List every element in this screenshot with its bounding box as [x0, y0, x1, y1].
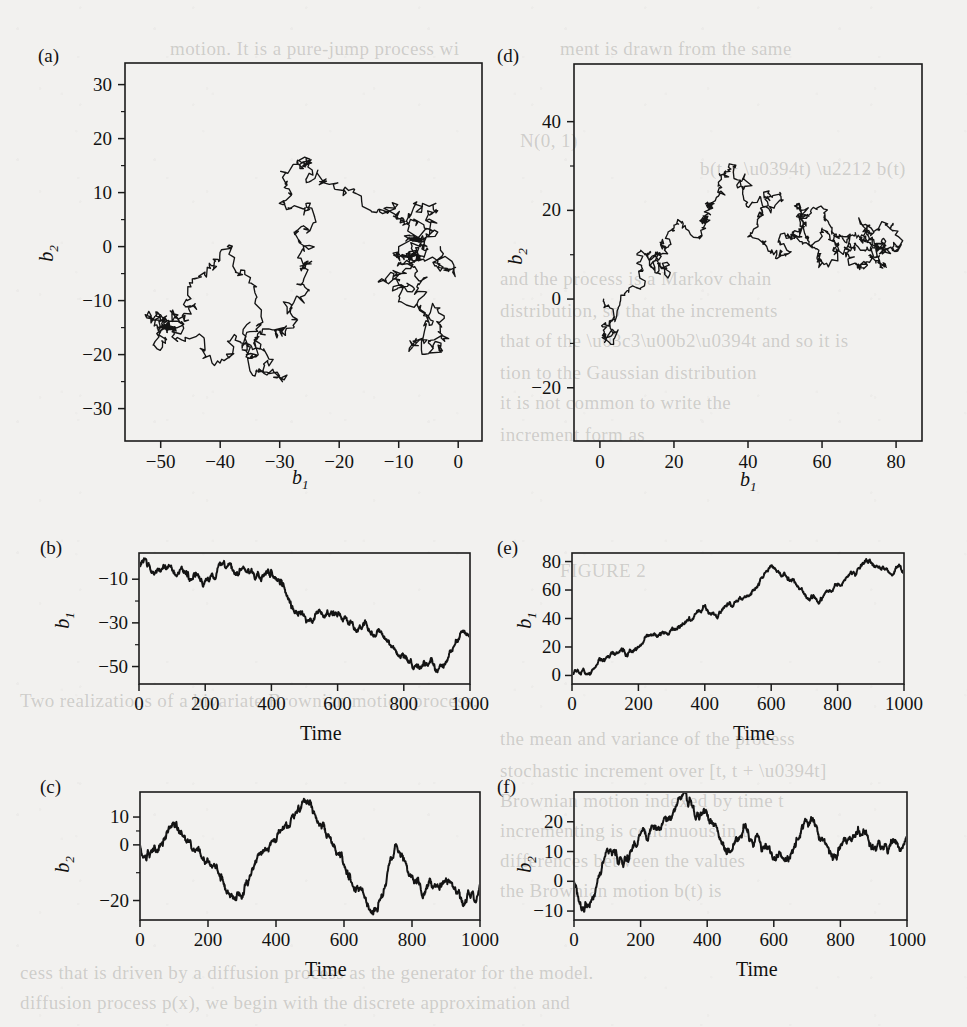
data-trace: [574, 791, 907, 912]
brownian-motion-figure: (a)3020100−10−20−30−50−40−30−20−100b2b1(…: [0, 0, 967, 1027]
axes-frame: [574, 792, 907, 920]
x-axis-title: Time: [736, 958, 778, 981]
plot-area-f: [0, 0, 967, 1027]
y-axis-title: b2: [513, 856, 540, 873]
panel-f: (f)20100−1002004006008001000b2Time: [0, 0, 967, 1027]
